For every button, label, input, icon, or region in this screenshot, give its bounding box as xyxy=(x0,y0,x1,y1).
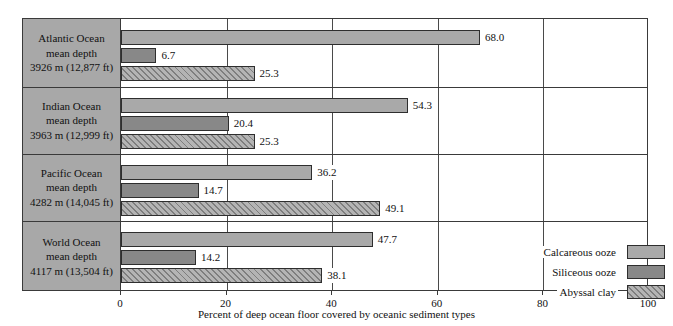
legend-item-calcareous: Calcareous ooze xyxy=(497,244,665,260)
bar-world-ocean-abyssal xyxy=(121,268,322,283)
row-label-line-1: Pacific Ocean xyxy=(41,166,102,181)
bar-atlantic-ocean-calcareous xyxy=(121,30,480,45)
bar-atlantic-ocean-abyssal xyxy=(121,66,255,81)
legend-label-calcareous: Calcareous ooze xyxy=(542,246,618,258)
x-tick-20 xyxy=(226,291,227,295)
row-label-line-1: World Ocean xyxy=(42,235,100,250)
bar-value-pacific-ocean-calcareous: 36.2 xyxy=(314,165,338,180)
row-label-line-1: Indian Ocean xyxy=(42,99,101,114)
bar-atlantic-ocean-siliceous xyxy=(121,48,156,63)
row-label-line-2: mean depth xyxy=(46,180,97,195)
bar-indian-ocean-calcareous xyxy=(121,98,408,113)
bar-indian-ocean-abyssal xyxy=(121,134,255,149)
bar-world-ocean-calcareous xyxy=(121,232,373,247)
bar-value-atlantic-ocean-siliceous: 6.7 xyxy=(158,48,177,63)
row-label-line-3: 3926 m (12,877 ft) xyxy=(30,60,113,75)
row-label-world-ocean: World Oceanmean depth4117 m (13,504 ft) xyxy=(23,221,120,292)
x-tick-60 xyxy=(437,291,438,295)
bar-value-indian-ocean-calcareous: 54.3 xyxy=(410,98,434,113)
row-label-indian-ocean: Indian Oceanmean depth3963 m (12,999 ft) xyxy=(23,87,120,154)
bar-indian-ocean-siliceous xyxy=(121,116,229,131)
legend-label-siliceous: Siliceous ooze xyxy=(550,266,618,278)
bar-world-ocean-siliceous xyxy=(121,250,196,265)
row-label-atlantic-ocean: Atlantic Oceanmean depth3926 m (12,877 f… xyxy=(23,19,120,87)
bar-value-indian-ocean-siliceous: 20.4 xyxy=(231,116,255,131)
row-label-pacific-ocean: Pacific Oceanmean depth4282 m (14,045 ft… xyxy=(23,154,120,221)
x-tick-40 xyxy=(331,291,332,295)
x-tick-0 xyxy=(120,291,121,295)
bar-value-atlantic-ocean-abyssal: 25.3 xyxy=(257,66,281,81)
row-label-line-3: 4117 m (13,504 ft) xyxy=(30,264,113,279)
row-label-line-2: mean depth xyxy=(46,113,97,128)
legend-swatch-siliceous xyxy=(627,265,665,279)
bar-value-pacific-ocean-abyssal: 49.1 xyxy=(382,201,406,216)
cut-off-caption xyxy=(36,0,336,6)
row-label-line-2: mean depth xyxy=(46,249,97,264)
bar-pacific-ocean-siliceous xyxy=(121,183,199,198)
bar-value-indian-ocean-abyssal: 25.3 xyxy=(257,134,281,149)
bar-value-world-ocean-siliceous: 14.2 xyxy=(198,250,222,265)
row-label-line-3: 3963 m (12,999 ft) xyxy=(30,128,113,143)
legend-swatch-abyssal xyxy=(627,285,665,299)
bar-value-atlantic-ocean-calcareous: 68.0 xyxy=(482,30,506,45)
row-label-line-2: mean depth xyxy=(46,46,97,61)
bar-value-pacific-ocean-siliceous: 14.7 xyxy=(201,183,225,198)
bar-value-world-ocean-abyssal: 38.1 xyxy=(324,268,348,283)
chart-legend: Calcareous oozeSiliceous oozeAbyssal cla… xyxy=(497,241,665,303)
legend-item-siliceous: Siliceous ooze xyxy=(497,264,665,280)
legend-item-abyssal: Abyssal clay xyxy=(497,284,665,300)
bar-pacific-ocean-calcareous xyxy=(121,165,312,180)
legend-swatch-calcareous xyxy=(627,245,665,259)
legend-label-abyssal: Abyssal clay xyxy=(557,286,618,298)
bar-pacific-ocean-abyssal xyxy=(121,201,380,216)
x-axis-title: Percent of deep ocean floor covered by o… xyxy=(0,308,673,320)
chart-plot-frame: Atlantic Oceanmean depth3926 m (12,877 f… xyxy=(22,18,648,291)
row-label-line-3: 4282 m (14,045 ft) xyxy=(30,195,113,210)
bar-value-world-ocean-calcareous: 47.7 xyxy=(375,232,399,247)
row-label-line-1: Atlantic Ocean xyxy=(38,31,104,46)
